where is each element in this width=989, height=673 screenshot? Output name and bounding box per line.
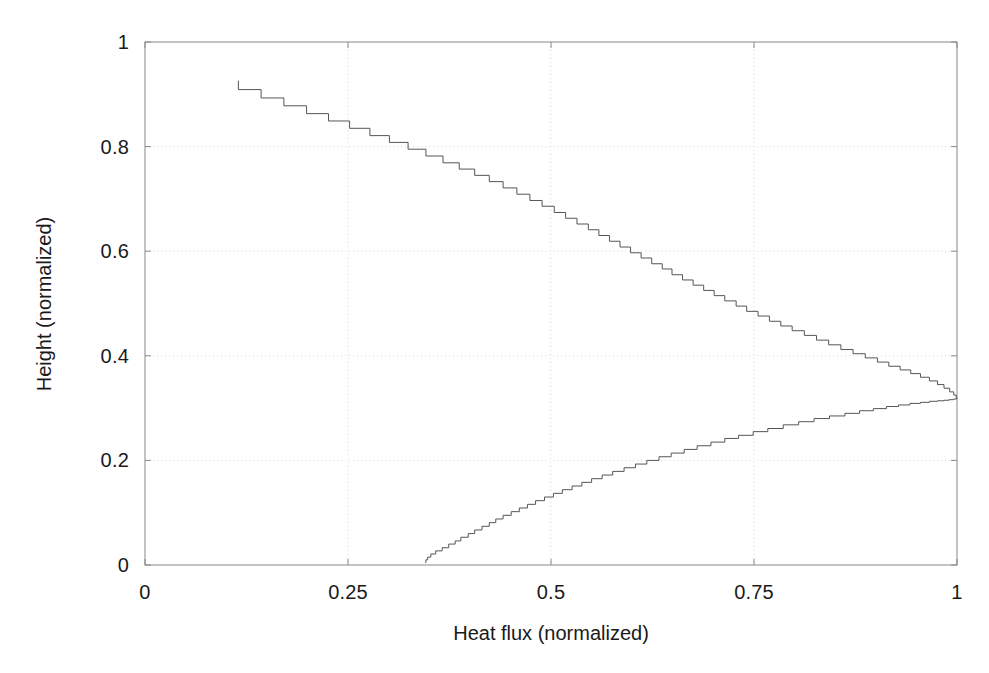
x-tick-label: 0.5 <box>537 581 565 604</box>
y-tick-label: 0.6 <box>0 240 129 263</box>
x-tick-label: 0 <box>139 581 150 604</box>
y-tick-label: 1 <box>0 31 129 54</box>
x-tick-label: 0.25 <box>328 581 368 604</box>
chart-figure: 00.250.50.751 00.20.40.60.81 Heat flux (… <box>0 0 989 673</box>
grid-layer <box>145 42 957 565</box>
x-tick-label: 1 <box>951 581 962 604</box>
y-tick-label: 0.2 <box>0 449 129 472</box>
y-tick-label: 0.4 <box>0 344 129 367</box>
y-tick-label: 0.8 <box>0 135 129 158</box>
y-tick-label: 0 <box>0 554 129 577</box>
series-line <box>238 81 957 563</box>
y-axis-title: Height (normalized) <box>33 217 56 392</box>
plot-canvas <box>0 0 989 673</box>
data-series <box>238 81 957 563</box>
x-axis-title: Heat flux (normalized) <box>453 622 649 645</box>
x-tick-label: 0.75 <box>734 581 774 604</box>
